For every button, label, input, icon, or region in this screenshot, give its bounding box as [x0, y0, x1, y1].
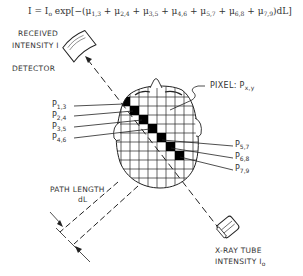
right-ear [195, 118, 201, 137]
nose-icon [150, 79, 162, 89]
pixel-label-2-4: P2,4 [52, 112, 66, 121]
dl-label: dL [78, 196, 88, 204]
pixel-7-9 [175, 151, 184, 160]
pixel-label-6-8: P6,8 [235, 153, 249, 162]
left-ear [114, 122, 120, 141]
xray-tube-label: X-RAY TUBE [215, 247, 262, 255]
pixel-2-4 [130, 106, 139, 115]
pixel-5-7 [157, 133, 166, 142]
pixel-4-6 [148, 124, 157, 133]
path-length-label: PATH LENGTH [50, 186, 105, 194]
intensity-io-label: INTENSITY Io [215, 258, 266, 267]
pixel-6-8 [166, 142, 175, 151]
beam-arrowhead [85, 56, 92, 63]
pixel-label-7-9: P7,9 [235, 165, 249, 174]
detector-icon [62, 29, 96, 62]
pixel-grid [110, 80, 205, 195]
intensity-i-label: INTENSITY I [12, 42, 59, 50]
pixel-label-5-7: P5,7 [235, 141, 249, 150]
detector-label: DETECTOR [12, 65, 55, 73]
pixel-3-5 [139, 115, 148, 124]
received-label: RECEIVED [18, 30, 58, 38]
xray-tube-icon [215, 215, 240, 239]
pixel-label-4-6: P4,6 [52, 134, 66, 143]
pixel-label: PIXEL: Px,y [210, 82, 255, 91]
pixel-label-1-3: P1,3 [52, 101, 66, 110]
pixel-label-3-5: P3,5 [52, 123, 66, 132]
